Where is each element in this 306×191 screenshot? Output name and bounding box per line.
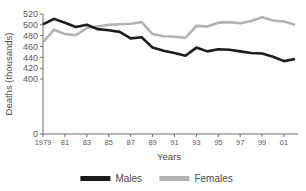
x-tick-label: 83	[83, 138, 91, 147]
y-tick-label: 500	[23, 20, 38, 30]
x-tick-label: 89	[148, 138, 156, 147]
x-tick-label: 85	[105, 138, 113, 147]
x-tick-label: 93	[192, 138, 200, 147]
series-line-females	[43, 17, 295, 42]
y-axis-title: Deaths (thousands)	[3, 33, 14, 116]
x-tick-label: 95	[214, 138, 222, 147]
legend-label-females: Females	[194, 173, 232, 184]
y-tick-label: 480	[23, 31, 38, 41]
legend-swatch-females	[159, 176, 189, 181]
x-tick-label: 97	[236, 138, 244, 147]
x-axis-title: Years	[157, 151, 181, 162]
chart-canvas: 0400420440460480500520197981838587899193…	[0, 0, 306, 191]
y-tick-label: 520	[23, 9, 38, 19]
line-chart: 0400420440460480500520197981838587899193…	[0, 0, 306, 191]
y-tick-label: 420	[23, 63, 38, 73]
series-line-males	[43, 19, 295, 61]
y-tick-label: 460	[23, 42, 38, 52]
y-tick-label: 400	[23, 74, 38, 84]
x-tick-label: 99	[258, 138, 266, 147]
y-tick-label: 440	[23, 53, 38, 63]
x-tick-label: 81	[61, 138, 69, 147]
x-tick-label: 1979	[35, 138, 52, 147]
x-tick-label: 91	[170, 138, 178, 147]
legend-swatch-males	[80, 176, 110, 181]
x-tick-label: 87	[126, 138, 134, 147]
x-tick-label: 01	[280, 138, 288, 147]
legend-label-males: Males	[115, 173, 142, 184]
